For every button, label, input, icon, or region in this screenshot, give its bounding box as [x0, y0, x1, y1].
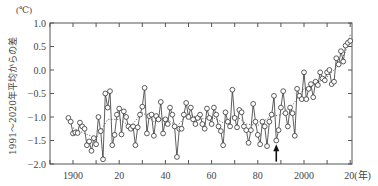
data-point: [332, 79, 337, 84]
data-point: [318, 70, 323, 75]
data-point: [172, 124, 177, 129]
data-point: [75, 131, 80, 136]
y-tick-label: 1.0: [34, 18, 47, 29]
data-point: [101, 157, 106, 162]
data-point: [193, 122, 198, 127]
data-point: [82, 126, 87, 131]
data-point: [191, 117, 196, 122]
data-point: [89, 148, 94, 153]
x-tick-label: 20: [114, 170, 124, 181]
data-point: [309, 82, 314, 87]
data-point: [135, 125, 140, 130]
annotations: [273, 144, 279, 162]
data-point: [188, 105, 193, 110]
data-point: [112, 132, 117, 137]
data-point: [258, 142, 263, 147]
temperature-anomaly-chart: 1.00.50.0−0.5−1.0−1.5−2.0(℃)1991～2020年平均…: [0, 0, 378, 186]
data-point: [165, 122, 170, 127]
data-point: [98, 129, 103, 134]
data-point: [184, 101, 189, 106]
data-point: [295, 86, 300, 91]
y-unit-label: (℃): [16, 5, 32, 15]
data-point: [327, 68, 332, 73]
data-point: [265, 144, 270, 149]
y-tick-label: −2.0: [28, 159, 46, 170]
data-point: [156, 117, 161, 122]
axes: 1.00.50.0−0.5−1.0−1.5−2.0(℃)1991～2020年平均…: [7, 5, 371, 182]
data-point: [228, 124, 233, 129]
data-point: [87, 139, 92, 144]
data-point: [269, 112, 274, 117]
data-point: [311, 95, 316, 100]
data-point: [202, 126, 207, 131]
y-tick-label: −1.5: [28, 135, 46, 146]
data-point: [334, 56, 339, 61]
data-point: [279, 105, 284, 110]
data-point: [170, 112, 175, 117]
data-point: [255, 132, 260, 137]
y-tick-label: 0.5: [34, 41, 47, 52]
data-point: [216, 124, 221, 129]
data-point: [198, 112, 203, 117]
data-point: [212, 105, 217, 110]
data-point: [272, 93, 277, 98]
data-point: [133, 143, 138, 148]
x-tick-label: 80: [253, 170, 263, 181]
data-point: [230, 87, 235, 92]
data-point: [161, 131, 166, 136]
data-point: [186, 115, 191, 120]
y-tick-label: 0.0: [34, 65, 47, 76]
data-point: [246, 140, 251, 145]
data-point: [108, 89, 113, 94]
data-point: [200, 122, 205, 127]
data-point: [94, 142, 99, 147]
data-point: [96, 115, 101, 120]
data-point: [117, 106, 122, 111]
data-point: [292, 133, 297, 138]
data-point: [221, 143, 226, 148]
data-point: [209, 122, 214, 127]
data-point: [262, 124, 267, 129]
data-point: [336, 62, 341, 67]
x-tick-label: 1900: [63, 170, 83, 181]
data-point: [281, 89, 286, 94]
x-tick-label: 40: [160, 170, 170, 181]
data-point: [119, 132, 124, 137]
data-point: [175, 155, 180, 160]
data-point: [304, 97, 309, 102]
data-point: [253, 119, 258, 124]
data-point: [163, 117, 168, 122]
data-point: [276, 128, 281, 133]
y-axis-label: 1991～2020年平均からの差: [7, 37, 18, 155]
data-point: [260, 119, 265, 124]
x-tick-label: 60: [207, 170, 217, 181]
data-point: [140, 104, 145, 109]
data-point: [232, 116, 237, 121]
data-point: [138, 112, 143, 117]
data-point: [207, 116, 212, 121]
data-point: [244, 128, 249, 133]
arrow-up-icon: [273, 144, 279, 151]
data-point: [290, 111, 295, 116]
data-point: [214, 112, 219, 117]
y-tick-label: −1.0: [28, 112, 46, 123]
data-point: [251, 101, 256, 106]
data-point: [149, 112, 154, 117]
data-point: [235, 125, 240, 130]
data-point: [168, 105, 173, 110]
data-point: [285, 124, 290, 129]
data-point: [91, 136, 96, 141]
data-point: [103, 91, 108, 96]
data-point: [114, 112, 119, 117]
data-point: [306, 86, 311, 91]
data-point: [274, 138, 279, 143]
data-point: [151, 133, 156, 138]
data-point: [68, 119, 73, 124]
data-point: [302, 70, 307, 75]
x-tick-label: 20(年): [344, 169, 371, 182]
data-point: [205, 106, 210, 111]
data-point: [288, 105, 293, 110]
data-point: [348, 38, 353, 43]
data-point: [110, 143, 115, 148]
data-point: [179, 126, 184, 131]
